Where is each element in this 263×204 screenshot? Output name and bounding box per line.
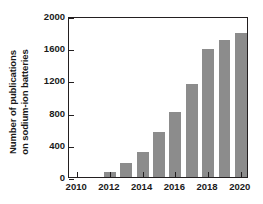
plot-area [68,17,248,178]
y-axis-title: Number of publications on sodium-ion bat… [0,0,38,204]
y-tick-0 [69,179,74,180]
plot-inner [69,18,247,177]
y-tick-1600 [69,50,74,51]
bar-2015 [153,132,165,177]
y-axis-title-line-2: on sodium-ion batteries [19,49,30,154]
bar-2018 [202,49,214,177]
y-tick-label-800: 800 [49,108,65,119]
x-tick-label-2016: 2016 [164,181,185,192]
chart-figure: Number of publications on sodium-ion bat… [0,0,263,204]
y-tick-label-2000: 2000 [44,11,65,22]
bar-2013 [120,163,132,177]
y-axis-title-line-1: Number of publications [7,50,18,154]
x-tick-label-2020: 2020 [229,181,250,192]
bar-2019 [219,40,231,177]
bar-2017 [186,84,198,177]
x-tick-label-2010: 2010 [66,181,87,192]
y-tick-label-1600: 1600 [44,43,65,54]
x-tick-2012 [110,172,111,177]
y-axis-tick-labels: 0400800120016002000 [36,0,65,204]
bar-2016 [169,112,181,177]
bar-2020 [235,33,247,177]
x-tick-label-2012: 2012 [98,181,119,192]
x-tick-label-2014: 2014 [131,181,152,192]
y-tick-800 [69,115,74,116]
y-tick-1200 [69,82,74,83]
x-tick-label-2018: 2018 [197,181,218,192]
x-axis-tick-labels: 201020122014201620182020 [0,181,263,201]
y-tick-400 [69,147,74,148]
x-tick-2016 [175,172,176,177]
x-tick-2020 [241,172,242,177]
x-tick-2018 [208,172,209,177]
y-tick-2000 [69,18,74,19]
y-tick-label-1200: 1200 [44,75,65,86]
x-tick-2010 [77,172,78,177]
y-tick-label-400: 400 [49,140,65,151]
x-tick-2014 [143,172,144,177]
